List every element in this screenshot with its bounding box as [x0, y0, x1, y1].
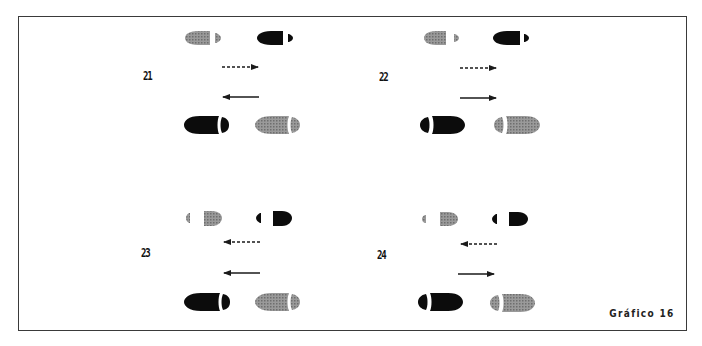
grey-shoe-heel: [291, 117, 301, 133]
bottom-prints: [184, 293, 300, 311]
black-heel-print: [288, 34, 293, 42]
black-heel-print: [524, 34, 529, 42]
black-shoe-heel: [221, 117, 230, 133]
black-shoe-toe: [184, 116, 219, 134]
grey-heel-print: [454, 34, 459, 42]
top-prints: [422, 212, 528, 226]
panel-label-22: 22: [379, 70, 388, 84]
grey-shoe-heel: [494, 117, 504, 133]
black-shoe-heel: [222, 294, 231, 310]
grey-toe-print: [440, 212, 458, 226]
panel-21: [184, 31, 300, 134]
grey-shoe-heel: [291, 294, 301, 310]
panel-label-21: 21: [143, 69, 152, 83]
bottom-prints: [184, 116, 300, 134]
grey-shoe-toe: [255, 293, 289, 311]
grey-toe-print: [424, 31, 446, 45]
panel-label-23: 23: [141, 246, 150, 260]
top-prints: [185, 31, 293, 45]
black-shoe-toe: [184, 293, 220, 311]
black-shoe-heel: [420, 117, 430, 133]
panel-label-24: 24: [377, 248, 386, 262]
black-toe-print: [257, 31, 283, 45]
footprint-diagram: [0, 0, 702, 346]
grey-heel-print: [215, 33, 221, 43]
grey-shoe-toe: [502, 294, 535, 312]
panel-23: [184, 211, 300, 311]
black-toe-print: [273, 211, 292, 226]
grey-shoe-heel: [490, 295, 500, 311]
grey-shoe-toe: [255, 116, 289, 134]
black-toe-print: [509, 212, 528, 226]
panel-24: [418, 212, 535, 312]
black-shoe-heel: [418, 294, 428, 310]
grey-toe-print: [185, 31, 210, 45]
black-shoe-toe: [432, 116, 465, 134]
figure-caption: Gráfico 16: [610, 307, 675, 320]
grey-heel-print: [186, 213, 190, 223]
black-toe-print: [493, 31, 520, 45]
black-heel-print: [492, 214, 497, 224]
top-prints: [424, 31, 529, 45]
panel-22: [420, 31, 540, 134]
black-heel-print: [256, 213, 261, 223]
grey-heel-print: [422, 215, 426, 223]
bottom-prints: [420, 116, 540, 134]
bottom-prints: [418, 293, 535, 312]
grey-shoe-toe: [506, 116, 540, 134]
top-prints: [186, 211, 292, 226]
black-shoe-toe: [430, 293, 463, 311]
grey-toe-print: [204, 211, 222, 226]
